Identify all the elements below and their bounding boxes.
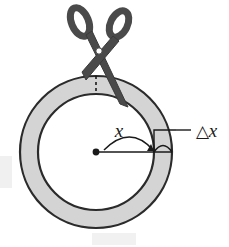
center-point — [93, 149, 100, 156]
radius-label: x — [114, 120, 124, 141]
scissors-blade-left — [82, 36, 119, 80]
scissors-handle-right — [105, 8, 133, 41]
annulus-scissors-diagram: x △ x — [0, 0, 229, 247]
thickness-label: x — [208, 120, 218, 141]
figure-container: x △ x — [0, 0, 229, 247]
page-artifact-left — [0, 156, 12, 188]
page-artifact-bottom — [92, 233, 136, 245]
scissors-pivot — [96, 48, 102, 54]
